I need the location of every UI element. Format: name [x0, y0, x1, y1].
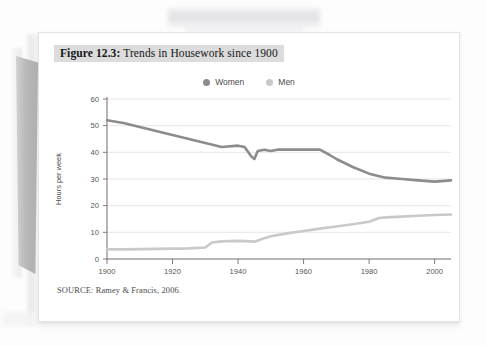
y-axis-tick-label: 30 [91, 175, 99, 184]
figure-caption-number: Figure 12.3: [60, 47, 120, 59]
y-axis-tick-label: 0 [95, 255, 99, 264]
y-axis-title: Hours per week [54, 153, 63, 205]
figure-caption: Figure 12.3: Trends in Housework since 1… [54, 45, 284, 62]
data-series [107, 120, 451, 249]
series-line-women [107, 120, 451, 181]
figure-card: Figure 12.3: Trends in Housework since 1… [38, 32, 460, 322]
y-axis-tick-label: 20 [91, 201, 99, 210]
x-axis-tick-label: 1980 [361, 267, 378, 276]
legend-swatch-women-icon [203, 79, 210, 86]
x-axis-tick-label: 1960 [295, 267, 312, 276]
line-chart-svg: 0102030405060 190019201940196019802000 H… [39, 89, 461, 289]
blurred-header-band-secondary [186, 24, 304, 32]
y-axis-tick-label: 60 [91, 95, 99, 104]
legend-swatch-men-icon [266, 79, 273, 86]
chart-legend: Women Men [39, 77, 459, 87]
chart-plot-area: 0102030405060 190019201940196019802000 H… [39, 89, 461, 289]
x-axis-tick-label: 2000 [426, 267, 443, 276]
y-axis-tick-label: 50 [91, 121, 99, 130]
figure-caption-title: Trends in Housework since 1900 [120, 47, 277, 59]
page-smudge [2, 312, 42, 326]
y-axis-title-label: Hours per week [54, 153, 63, 205]
legend-label-men: Men [278, 77, 295, 87]
legend-item-women[interactable]: Women [203, 77, 244, 87]
gridlines [107, 99, 451, 232]
x-axis-tick-label: 1920 [164, 267, 181, 276]
source-note: SOURCE: Ramey & Francis, 2006. [57, 286, 181, 295]
y-axis-tick-label: 10 [91, 228, 99, 237]
x-axis-tick-label: 1940 [230, 267, 247, 276]
legend-label-women: Women [215, 77, 244, 87]
x-axis-tick-label: 1900 [99, 267, 116, 276]
y-axis: 0102030405060 [91, 95, 107, 264]
x-axis: 190019201940196019802000 [99, 259, 451, 276]
legend-item-men[interactable]: Men [266, 77, 295, 87]
y-axis-tick-label: 40 [91, 148, 99, 157]
